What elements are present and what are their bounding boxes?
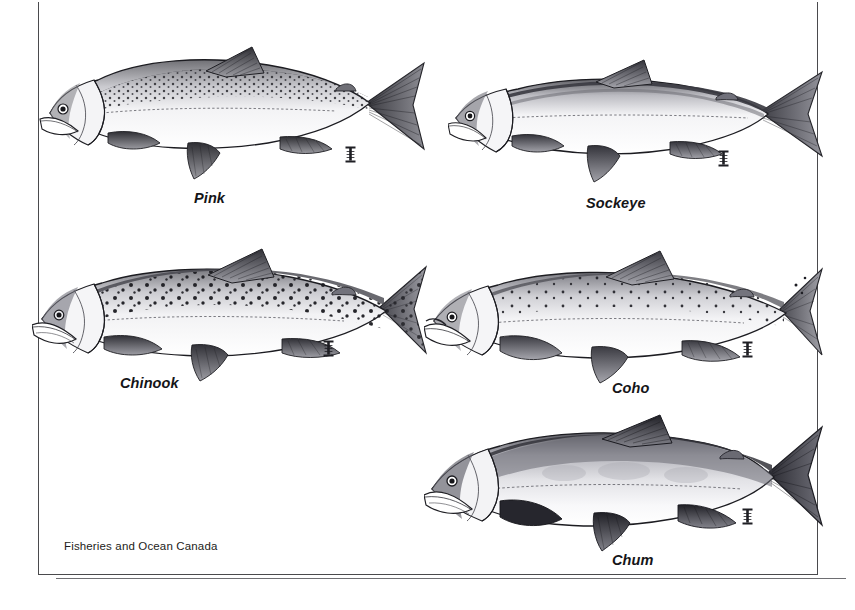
species-label-coho: Coho	[612, 380, 649, 396]
plate-chinook	[32, 243, 428, 383]
figure-page: Pink	[0, 0, 855, 610]
scale-bar-marker-chum	[742, 508, 753, 525]
scale-bar-marker-pink	[345, 146, 356, 163]
species-label-chum: Chum	[612, 552, 653, 568]
pink-salmon-illustration	[36, 33, 426, 183]
species-label-pink: Pink	[194, 190, 225, 206]
plate-chum	[424, 413, 824, 553]
plate-coho	[424, 247, 824, 387]
source-credit: Fisheries and Ocean Canada	[64, 540, 218, 552]
species-label-chinook: Chinook	[120, 375, 179, 391]
species-label-sockeye: Sockeye	[586, 195, 646, 211]
plate-sockeye	[448, 46, 830, 186]
bottom-rule	[56, 578, 846, 579]
plate-pink	[36, 33, 426, 183]
scale-bar-marker-coho	[742, 341, 753, 358]
chinook-salmon-illustration	[32, 243, 428, 383]
scale-bar-marker-sockeye	[718, 150, 729, 167]
scale-bar-marker-chinook	[323, 340, 334, 357]
chum-salmon-illustration	[424, 413, 824, 553]
coho-salmon-illustration	[424, 247, 824, 387]
sockeye-salmon-illustration	[448, 46, 830, 186]
